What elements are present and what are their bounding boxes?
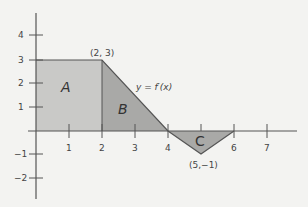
function-label: y = f′(x) [135,82,172,92]
region-a [36,60,102,131]
point-label-5-neg1: (5,−1) [189,160,218,170]
point-label-2-3: (2, 3) [90,48,114,58]
x-tick-label: 3 [132,143,138,153]
y-tick-label: 1 [18,102,24,112]
region-b-label: B [118,101,128,117]
x-tick-label: 6 [231,143,237,153]
y-tick-label: 3 [18,55,24,65]
x-tick-label: 1 [66,143,72,153]
y-tick-label: −1 [14,149,27,159]
x-tick-label: 7 [264,143,270,153]
y-tick-label: 4 [18,30,24,40]
y-tick-label: −2 [14,173,27,183]
region-c-label: C [195,133,205,149]
graph-figure: 4 3 2 1 −1 −2 1 2 3 4 6 7 A B C (2, 3) (… [0,0,308,207]
region-a-label: A [60,79,71,95]
graph-canvas: 4 3 2 1 −1 −2 1 2 3 4 6 7 A B C (2, 3) (… [0,0,308,207]
y-tick-label: 2 [18,78,24,88]
x-tick-label: 2 [99,143,105,153]
x-tick-label: 4 [165,143,171,153]
